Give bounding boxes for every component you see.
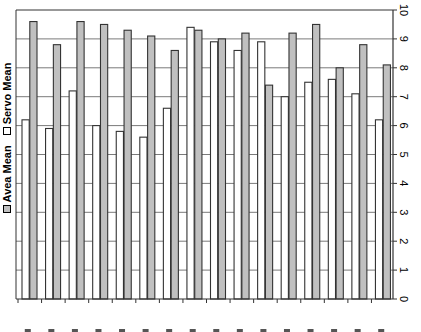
legend-item-avea: Avea Mean bbox=[1, 145, 13, 213]
y-tick-label: 9 bbox=[398, 36, 410, 42]
bar-servo-mean bbox=[305, 82, 312, 299]
bar-servo-mean bbox=[234, 50, 241, 299]
bar-servo-mean bbox=[352, 94, 359, 299]
bar-servo-mean bbox=[187, 27, 194, 299]
bar-servo-mean bbox=[328, 79, 335, 299]
bar-servo-mean bbox=[22, 120, 29, 299]
bar-avea-mean bbox=[53, 45, 60, 299]
bar-chart: 012345678910 bbox=[0, 0, 421, 332]
legend-swatch-avea bbox=[3, 205, 11, 213]
bar-servo-mean bbox=[375, 120, 382, 299]
bar-avea-mean bbox=[171, 50, 178, 299]
bar-avea-mean bbox=[218, 39, 225, 299]
legend-swatch-servo bbox=[3, 127, 11, 135]
bar-avea-mean bbox=[383, 65, 390, 299]
y-tick-label: 10 bbox=[398, 4, 410, 16]
bar-avea-mean bbox=[242, 33, 249, 299]
bar-servo-mean bbox=[140, 137, 147, 299]
legend-item-servo: Servo Mean bbox=[1, 63, 13, 136]
y-tick-label: 7 bbox=[398, 94, 410, 100]
y-tick-label: 2 bbox=[398, 238, 410, 244]
bar-avea-mean bbox=[195, 30, 202, 299]
bar-avea-mean bbox=[30, 22, 37, 299]
legend: Avea Mean Servo Mean bbox=[0, 18, 14, 258]
bar-avea-mean bbox=[336, 68, 343, 299]
bar-servo-mean bbox=[116, 131, 123, 299]
bar-servo-mean bbox=[93, 126, 100, 299]
bar-avea-mean bbox=[77, 22, 84, 299]
y-tick-label: 0 bbox=[398, 296, 410, 302]
bar-avea-mean bbox=[265, 85, 272, 299]
y-tick-label: 3 bbox=[398, 209, 410, 215]
bar-avea-mean bbox=[100, 24, 107, 299]
bar-servo-mean bbox=[163, 108, 170, 299]
bar-servo-mean bbox=[69, 91, 76, 299]
y-tick-label: 1 bbox=[398, 267, 410, 273]
bar-avea-mean bbox=[124, 30, 131, 299]
y-tick-label: 8 bbox=[398, 65, 410, 71]
y-tick-label: 5 bbox=[398, 151, 410, 157]
legend-label-servo: Servo Mean bbox=[1, 63, 13, 125]
bar-servo-mean bbox=[46, 128, 53, 299]
bar-avea-mean bbox=[313, 24, 320, 299]
bar-avea-mean bbox=[148, 36, 155, 299]
legend-label-avea: Avea Mean bbox=[1, 145, 13, 202]
bar-servo-mean bbox=[211, 42, 218, 299]
y-axis-ticks: 012345678910 bbox=[393, 4, 410, 302]
bar-avea-mean bbox=[360, 45, 367, 299]
bar-servo-mean bbox=[258, 42, 265, 299]
bars bbox=[22, 22, 390, 299]
x-axis-ticks bbox=[18, 299, 384, 332]
y-tick-label: 6 bbox=[398, 123, 410, 129]
y-tick-label: 4 bbox=[398, 180, 410, 186]
bar-avea-mean bbox=[289, 33, 296, 299]
bar-servo-mean bbox=[281, 97, 288, 299]
